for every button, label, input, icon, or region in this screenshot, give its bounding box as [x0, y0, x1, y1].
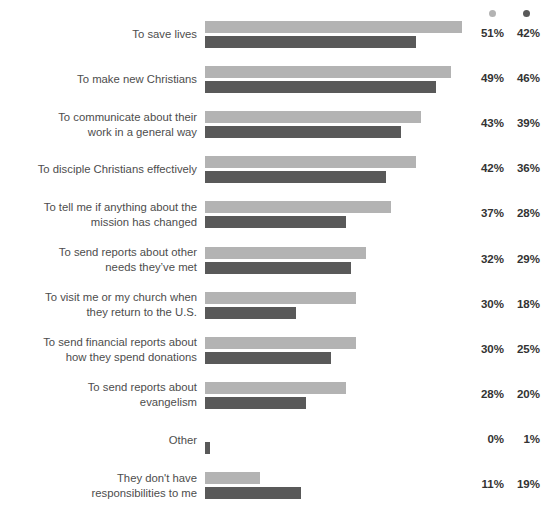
value-series-a: 51% — [470, 27, 504, 39]
bar-group — [205, 66, 451, 93]
value-series-b: 19% — [506, 478, 540, 490]
bar-group — [205, 111, 421, 138]
bar-group — [205, 201, 391, 228]
legend-dot-series-a — [489, 10, 496, 17]
bar-series-b — [205, 307, 296, 319]
bar-group — [205, 292, 356, 319]
value-series-b: 20% — [506, 388, 540, 400]
value-series-b: 28% — [506, 207, 540, 219]
value-series-b: 39% — [506, 117, 540, 129]
bar-series-b — [205, 216, 346, 228]
category-label: To send financial reports about how they… — [0, 335, 197, 365]
value-series-a: 30% — [470, 298, 504, 310]
value-series-a: 49% — [470, 72, 504, 84]
value-series-b: 25% — [506, 343, 540, 355]
value-series-b: 29% — [506, 253, 540, 265]
bar-group — [205, 382, 346, 409]
category-label: To save lives — [0, 27, 197, 42]
grouped-bar-chart: To save lives51%42%To make new Christian… — [0, 0, 557, 515]
chart-legend — [470, 8, 557, 26]
category-label: To communicate about their work in a gen… — [0, 110, 197, 140]
bar-group — [205, 21, 462, 48]
value-series-b: 1% — [506, 433, 540, 445]
category-label: Other — [0, 433, 197, 448]
bar-series-b — [205, 397, 306, 409]
category-label: To disciple Christians effectively — [0, 162, 197, 177]
value-series-a: 43% — [470, 117, 504, 129]
value-series-a: 37% — [470, 207, 504, 219]
bar-series-b — [205, 36, 416, 48]
bar-series-b — [205, 126, 401, 138]
value-series-a: 11% — [470, 478, 504, 490]
bar-group — [205, 472, 301, 499]
category-label: They don't have responsibilities to me — [0, 471, 197, 501]
bar-series-a — [205, 201, 391, 213]
bar-series-b — [205, 442, 210, 454]
bar-series-a — [205, 21, 462, 33]
bar-series-b — [205, 352, 331, 364]
value-series-a: 30% — [470, 343, 504, 355]
category-label: To tell me if anything about the mission… — [0, 200, 197, 230]
legend-dot-series-b — [523, 10, 530, 17]
bar-series-b — [205, 81, 436, 93]
value-series-b: 46% — [506, 72, 540, 84]
bar-series-b — [205, 171, 386, 183]
bar-series-a — [205, 472, 260, 484]
value-series-b: 18% — [506, 298, 540, 310]
category-label: To make new Christians — [0, 72, 197, 87]
value-series-a: 0% — [470, 433, 504, 445]
bar-series-a — [205, 156, 416, 168]
bar-group — [205, 156, 416, 183]
bar-series-a — [205, 111, 421, 123]
value-series-b: 42% — [506, 27, 540, 39]
bar-series-a — [205, 66, 451, 78]
value-series-a: 32% — [470, 253, 504, 265]
bar-series-b — [205, 487, 301, 499]
bar-group — [205, 427, 210, 454]
bar-series-a — [205, 292, 356, 304]
value-series-b: 36% — [506, 162, 540, 174]
bar-group — [205, 337, 356, 364]
bar-series-a — [205, 337, 356, 349]
category-label: To send reports about evangelism — [0, 380, 197, 410]
bar-group — [205, 247, 366, 274]
bar-series-a — [205, 382, 346, 394]
bar-series-a — [205, 247, 366, 259]
value-series-a: 28% — [470, 388, 504, 400]
category-label: To visit me or my church when they retur… — [0, 290, 197, 320]
value-series-a: 42% — [470, 162, 504, 174]
bar-series-b — [205, 262, 351, 274]
category-label: To send reports about other needs they’v… — [0, 245, 197, 275]
